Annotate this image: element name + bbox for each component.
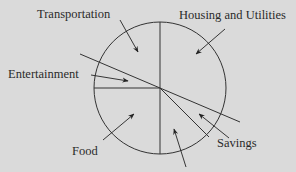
arrow-entertainment <box>91 75 128 81</box>
arrow-transportation <box>120 20 138 52</box>
label-housing-and-utilities: Housing and Utilities <box>179 9 286 22</box>
arrow-housing <box>196 29 225 54</box>
arrow-unlabeled-bottom <box>174 129 186 167</box>
pie-chart-figure: Transportation Housing and Utilities Ent… <box>0 0 296 172</box>
label-entertainment: Entertainment <box>8 68 79 81</box>
arrow-savings <box>199 114 229 138</box>
arrow-food <box>103 114 134 140</box>
label-savings: Savings <box>217 137 257 150</box>
label-transportation: Transportation <box>37 8 110 21</box>
divider-short-diagonal <box>160 88 209 137</box>
label-food: Food <box>72 145 98 158</box>
